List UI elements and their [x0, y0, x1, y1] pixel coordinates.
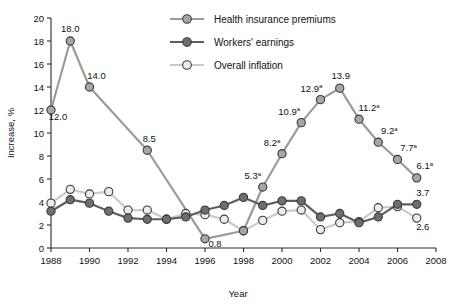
data-point [336, 209, 344, 217]
y-tick-label: 20 [33, 13, 44, 24]
data-point [278, 207, 286, 215]
data-point-label: 5.3a [244, 170, 261, 181]
data-point [182, 213, 190, 221]
data-point [66, 37, 74, 45]
data-point-label: 11.2a [358, 102, 380, 113]
data-point [297, 206, 305, 214]
data-label-superscript: a [297, 106, 301, 112]
data-label-superscript: a [430, 161, 434, 167]
data-point [316, 226, 324, 234]
data-label-superscript: a [319, 83, 323, 89]
data-label-superscript: a [394, 126, 398, 132]
data-point [316, 96, 324, 104]
legend-marker-2 [183, 61, 192, 70]
data-point [413, 200, 421, 208]
x-tick-label: 2002 [310, 255, 331, 266]
data-point [143, 215, 151, 223]
data-point-label: 14.0 [87, 70, 106, 81]
data-point [239, 227, 247, 235]
data-point [374, 204, 382, 212]
data-point [278, 197, 286, 205]
data-point [143, 146, 151, 154]
data-point [259, 216, 267, 224]
data-point [124, 206, 132, 214]
data-point-label: 12.0 [49, 111, 68, 122]
data-point [278, 150, 286, 158]
data-point [105, 207, 113, 215]
y-tick-label: 10 [33, 128, 44, 139]
y-tick-label: 4 [39, 197, 44, 208]
data-point [220, 201, 228, 209]
data-point [66, 196, 74, 204]
data-point [47, 199, 55, 207]
x-tick-label: 1992 [117, 255, 138, 266]
data-point [124, 214, 132, 222]
data-point [393, 200, 401, 208]
data-point [105, 188, 113, 196]
data-point [413, 174, 421, 182]
data-point [239, 193, 247, 201]
data-point-label: 7.7a [400, 142, 417, 153]
data-point [316, 213, 324, 221]
x-tick-label: 1994 [156, 255, 177, 266]
x-tick-label: 2006 [387, 255, 408, 266]
y-tick-label: 2 [39, 220, 44, 231]
x-axis-title: Year [228, 288, 247, 299]
y-tick-label: 12 [33, 105, 44, 116]
y-tick-label: 18 [33, 36, 44, 47]
data-point [47, 207, 55, 215]
y-tick-label: 16 [33, 59, 44, 70]
data-point-label: 10.9a [278, 106, 301, 117]
x-tick-label: 2000 [271, 255, 292, 266]
data-point-label: 3.7 [416, 187, 429, 198]
chart-container: 0246810121416182019881990199219941996199… [0, 0, 468, 305]
line-chart: 0246810121416182019881990199219941996199… [0, 0, 468, 305]
data-point [162, 215, 170, 223]
data-point [201, 206, 209, 214]
data-label-superscript: a [413, 143, 417, 149]
x-tick-label: 2008 [425, 255, 446, 266]
data-point [336, 219, 344, 227]
y-axis-title: Increase, % [5, 107, 16, 158]
legend-label-0: Health insurance premiums [214, 14, 336, 25]
data-point [393, 155, 401, 163]
data-point-label: 18.0 [61, 23, 80, 34]
data-label-superscript: a [258, 171, 262, 177]
data-label-superscript: a [277, 138, 281, 144]
data-point [85, 83, 93, 91]
data-point-label: 0.8 [208, 238, 221, 249]
chart-legend: Health insurance premiumsWorkers' earnin… [170, 14, 336, 71]
data-point [143, 206, 151, 214]
data-point-label: 9.2a [381, 125, 398, 136]
legend-label-2: Overall inflation [214, 60, 283, 71]
data-point-label: 6.1a [416, 160, 433, 171]
data-point [66, 185, 74, 193]
data-point [220, 215, 228, 223]
data-point [85, 190, 93, 198]
x-tick-label: 1990 [79, 255, 100, 266]
y-tick-label: 6 [39, 174, 44, 185]
x-tick-label: 1998 [233, 255, 254, 266]
data-point-label: 8.5 [143, 133, 156, 144]
x-tick-label: 1988 [40, 255, 61, 266]
legend-marker-1 [183, 38, 192, 47]
y-tick-label: 0 [39, 243, 44, 254]
data-point [259, 201, 267, 209]
data-point [336, 84, 344, 92]
data-point [85, 199, 93, 207]
data-label-superscript: a [376, 103, 380, 109]
data-point-label: 2.6 [416, 221, 429, 232]
data-point [374, 213, 382, 221]
data-point [355, 219, 363, 227]
data-point-label: 13.9 [332, 70, 351, 81]
y-tick-label: 14 [33, 82, 44, 93]
data-point-label: 12.9a [301, 83, 324, 94]
data-point-label: 8.2a [264, 137, 281, 148]
legend-marker-0 [183, 15, 192, 24]
data-point [297, 119, 305, 127]
data-point [355, 115, 363, 123]
legend-label-1: Workers' earnings [214, 37, 294, 48]
y-tick-label: 8 [39, 151, 44, 162]
x-tick-label: 1996 [194, 255, 215, 266]
data-point [374, 138, 382, 146]
